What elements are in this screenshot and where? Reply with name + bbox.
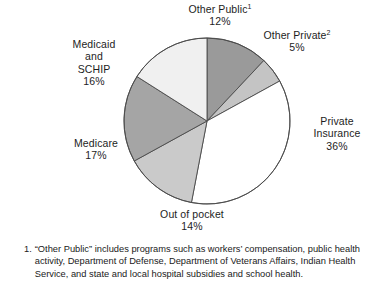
slice-label-private-insurance-name-1: Private xyxy=(300,115,374,127)
slice-label-other-public: Other Public1 12% xyxy=(168,3,272,28)
pie-slice-group xyxy=(124,38,290,204)
footnote-marker-1: 1 xyxy=(247,3,251,10)
slice-label-medicare: Medicare 17% xyxy=(60,137,132,162)
slice-label-private-insurance-name-2: Insurance xyxy=(300,127,374,139)
footnote-list: 1. “Other Public” includes programs such… xyxy=(24,243,364,280)
footnote-body: “Other Public” includes programs such as… xyxy=(35,243,364,280)
slice-label-other-private: Other Private2 5% xyxy=(243,29,351,54)
footnote-marker-2: 2 xyxy=(327,29,331,36)
slice-label-private-insurance: Private Insurance 36% xyxy=(300,115,374,152)
slice-label-medicare-name: Medicare xyxy=(60,137,132,149)
slice-label-other-public-name: Other Public1 xyxy=(168,3,272,15)
slice-label-medicaid-schip-name-2: and xyxy=(58,50,130,62)
slice-label-other-private-name: Other Private2 xyxy=(243,29,351,41)
slice-label-medicaid-schip-name-1: Medicaid xyxy=(58,38,130,50)
slice-label-medicaid-schip-name-3: SCHIP xyxy=(58,63,130,75)
footnote-item: 1. “Other Public” includes programs such… xyxy=(24,243,364,280)
slice-label-out-of-pocket-value: 14% xyxy=(140,220,244,232)
slice-label-private-insurance-value: 36% xyxy=(300,140,374,152)
footnote-number: 1. xyxy=(24,243,35,280)
pie-chart-figure: Other Public1 12% Other Private2 5% Priv… xyxy=(0,0,378,302)
slice-label-medicare-value: 17% xyxy=(60,149,132,161)
slice-label-other-private-value: 5% xyxy=(243,41,351,53)
slice-label-medicaid-schip: Medicaid and SCHIP 16% xyxy=(58,38,130,88)
slice-label-medicaid-schip-value: 16% xyxy=(58,75,130,87)
slice-label-other-public-value: 12% xyxy=(168,15,272,27)
slice-label-out-of-pocket-name: Out of pocket xyxy=(140,208,244,220)
slice-label-out-of-pocket: Out of pocket 14% xyxy=(140,208,244,233)
